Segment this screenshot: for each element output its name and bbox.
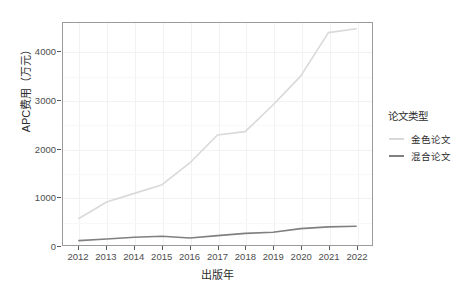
y-tick-label: 0: [22, 241, 56, 252]
legend-line-swatch-icon: [388, 132, 405, 145]
legend: 论文类型 金色论文混合论文: [388, 108, 474, 164]
y-tick-mark: [57, 246, 61, 247]
x-tick-mark: [245, 246, 246, 250]
x-tick-mark: [273, 246, 274, 250]
legend-item-1[interactable]: 混合论文: [388, 147, 474, 164]
x-tick-mark: [218, 246, 219, 250]
y-tick-label: 3000: [22, 94, 56, 105]
y-tick-label: 1000: [22, 192, 56, 203]
legend-item-0[interactable]: 金色论文: [388, 130, 474, 147]
x-axis-tick-labels: 2012201320142015201620172018201920202021…: [62, 251, 373, 265]
x-tick-mark: [301, 246, 302, 250]
series-line-金色论文: [79, 29, 356, 219]
legend-item-label: 金色论文: [411, 132, 451, 146]
y-tick-mark: [57, 100, 61, 101]
y-tick-mark: [57, 51, 61, 52]
y-tick-mark: [57, 197, 61, 198]
x-tick-mark: [134, 246, 135, 250]
y-tick-label: 2000: [22, 143, 56, 154]
legend-item-label: 混合论文: [411, 149, 451, 163]
legend-line-swatch-icon: [388, 149, 405, 162]
y-axis-tick-labels: 01000200030004000: [22, 0, 56, 289]
line-chart: APC费用（万元） 01000200030004000 201220132014…: [0, 0, 474, 289]
x-tick-mark: [357, 246, 358, 250]
x-tick-mark: [329, 246, 330, 250]
x-tick-mark: [190, 246, 191, 250]
y-tick-label: 4000: [22, 46, 56, 57]
x-tick-label: 2022: [337, 251, 377, 262]
x-tick-mark: [78, 246, 79, 250]
legend-items: 金色论文混合论文: [388, 130, 474, 164]
series-layer: [63, 23, 372, 245]
x-tick-mark: [106, 246, 107, 250]
x-tick-mark: [162, 246, 163, 250]
plot-panel: [62, 22, 373, 246]
legend-title: 论文类型: [388, 108, 474, 123]
series-line-混合论文: [79, 226, 356, 240]
y-tick-mark: [57, 149, 61, 150]
x-axis-title: 出版年: [62, 266, 373, 282]
